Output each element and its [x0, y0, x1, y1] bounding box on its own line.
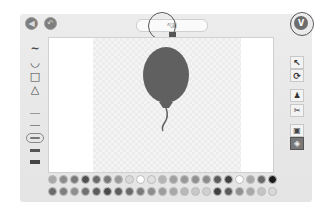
color-swatch[interactable]: [180, 175, 189, 184]
line-heavy-icon: [30, 160, 40, 164]
shrink-tool[interactable]: ▣: [290, 124, 304, 137]
circle-tool[interactable]: ◡: [28, 56, 42, 69]
scissors-icon: ✂: [294, 106, 301, 115]
color-swatch[interactable]: [158, 187, 167, 196]
color-swatch[interactable]: [158, 175, 167, 184]
color-swatch[interactable]: [246, 175, 255, 184]
color-swatch[interactable]: [224, 187, 233, 196]
color-swatch[interactable]: [81, 175, 90, 184]
select-tool[interactable]: ↖: [290, 56, 304, 69]
rectangle-icon: □: [30, 70, 40, 83]
drawing-canvas[interactable]: [48, 37, 274, 173]
color-swatch[interactable]: [81, 187, 90, 196]
back-button[interactable]: ◀: [25, 17, 38, 30]
color-swatch[interactable]: [114, 175, 123, 184]
color-swatch[interactable]: [202, 175, 211, 184]
color-swatch[interactable]: [114, 187, 123, 196]
fill-tool[interactable]: ◈: [290, 137, 304, 150]
line-medium-icon: [30, 137, 40, 139]
rectangle-tool[interactable]: □: [28, 70, 42, 83]
color-swatch[interactable]: [103, 187, 112, 196]
color-swatch[interactable]: [268, 175, 277, 184]
triangle-icon: △: [31, 83, 39, 96]
color-swatch[interactable]: [257, 175, 266, 184]
curve-tool[interactable]: ∼: [28, 42, 42, 55]
color-swatch[interactable]: [268, 187, 277, 196]
circle-icon: ◡: [31, 56, 39, 69]
line-light-icon: [30, 125, 40, 126]
rotate-icon: ⟳: [293, 71, 301, 81]
color-swatch[interactable]: [48, 175, 57, 184]
color-swatch[interactable]: [103, 175, 112, 184]
color-swatch[interactable]: [92, 187, 101, 196]
color-swatch[interactable]: [92, 175, 101, 184]
undo-button[interactable]: ↶: [44, 17, 57, 30]
color-swatch[interactable]: [257, 187, 266, 196]
rotate-tool[interactable]: ⟳: [290, 69, 304, 82]
triangle-tool[interactable]: △: [28, 83, 42, 96]
title-input[interactable]: 气球: [136, 19, 208, 32]
color-swatch[interactable]: [136, 187, 145, 196]
color-swatch[interactable]: [125, 187, 134, 196]
color-swatch[interactable]: [147, 187, 156, 196]
cursor-icon: ↖: [293, 58, 301, 68]
stroke-light[interactable]: [28, 124, 42, 127]
color-swatch[interactable]: [202, 187, 211, 196]
color-swatch[interactable]: [70, 187, 79, 196]
stamp-tool[interactable]: ♟: [290, 89, 304, 102]
color-swatch[interactable]: [169, 187, 178, 196]
stroke-heavy[interactable]: [28, 159, 42, 164]
color-swatch[interactable]: [169, 175, 178, 184]
stroke-selected[interactable]: [28, 131, 42, 145]
line-thin-icon: [30, 113, 40, 114]
color-swatch[interactable]: [125, 175, 134, 184]
balloon-drawing: [49, 38, 273, 172]
stroke-thick[interactable]: [28, 149, 42, 152]
checkmark-icon: V: [298, 19, 304, 28]
color-swatch[interactable]: [59, 175, 68, 184]
cut-tool[interactable]: ✂: [290, 104, 304, 117]
shrink-icon: ▣: [293, 126, 301, 135]
stamp-icon: ♟: [293, 91, 300, 100]
undo-icon: ↶: [47, 19, 54, 28]
paint-bucket-icon: ◈: [294, 139, 300, 148]
color-swatch[interactable]: [191, 187, 200, 196]
line-thick-icon: [30, 149, 40, 152]
color-swatch[interactable]: [48, 187, 57, 196]
color-swatch[interactable]: [246, 187, 255, 196]
color-swatch[interactable]: [235, 175, 244, 184]
color-swatch[interactable]: [70, 175, 79, 184]
color-swatch[interactable]: [224, 175, 233, 184]
curve-icon: ∼: [30, 42, 39, 55]
confirm-button[interactable]: V: [294, 16, 308, 30]
back-icon: ◀: [28, 19, 34, 28]
color-swatch[interactable]: [213, 175, 222, 184]
stroke-thin[interactable]: [28, 112, 42, 115]
color-swatch[interactable]: [191, 175, 200, 184]
color-swatch[interactable]: [59, 187, 68, 196]
color-swatch[interactable]: [235, 187, 244, 196]
color-swatch[interactable]: [136, 175, 145, 184]
color-swatch[interactable]: [147, 175, 156, 184]
color-swatch[interactable]: [180, 187, 189, 196]
color-swatch[interactable]: [213, 187, 222, 196]
